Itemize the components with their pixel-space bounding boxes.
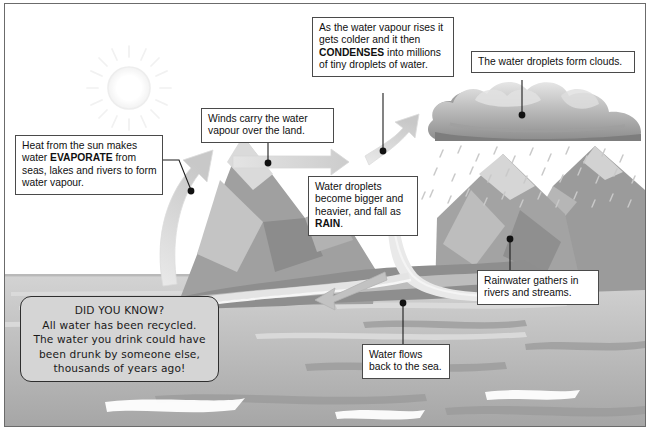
callout-clouds-text: The water droplets form clouds. xyxy=(478,56,622,67)
callout-evaporate[interactable]: Heat from the sun makes water EVAPORATE … xyxy=(15,135,163,195)
water-cycle-diagram-image: Heat from the sun makes water EVAPORATE … xyxy=(0,0,652,435)
leader-dot-water-flows xyxy=(400,300,407,307)
callout-rain[interactable]: Water droplets become bigger and heavier… xyxy=(308,176,418,236)
callout-clouds[interactable]: The water droplets form clouds. xyxy=(471,51,635,73)
callout-rainwater[interactable]: Rainwater gathers in rivers and streams. xyxy=(477,270,599,305)
callout-condenses[interactable]: As the water vapour rises it gets colder… xyxy=(312,17,454,77)
diagram-scene: Heat from the sun makes water EVAPORATE … xyxy=(5,4,645,426)
leader-dot-winds xyxy=(265,160,272,167)
callout-water-flows[interactable]: Water flows back to the sea. xyxy=(362,344,450,379)
did-you-know-line-2: The water you drink could have xyxy=(29,332,210,347)
did-you-know-box: DID YOU KNOW? All water has been recycle… xyxy=(20,296,219,382)
callout-water-flows-text: Water flows back to the sea. xyxy=(369,349,442,372)
leader-dot-evaporate xyxy=(188,188,195,195)
callout-rain-text: Water droplets become bigger and heavier… xyxy=(315,181,403,229)
callout-condenses-keyword: CONDENSES xyxy=(319,47,384,58)
did-you-know-line-4: thousands of years ago! xyxy=(29,361,210,376)
callout-winds[interactable]: Winds carry the water vapour over the la… xyxy=(201,108,334,143)
diagram-frame: Heat from the sun makes water EVAPORATE … xyxy=(4,3,646,427)
leader-dot-condenses xyxy=(380,148,387,155)
leader-dot-clouds xyxy=(519,112,526,119)
callout-evaporate-keyword: EVAPORATE xyxy=(50,152,113,163)
did-you-know-heading: DID YOU KNOW? xyxy=(29,303,210,318)
callout-winds-text: Winds carry the water vapour over the la… xyxy=(208,113,308,136)
callout-evaporate-text: Heat from the sun makes water EVAPORATE … xyxy=(22,140,156,188)
callout-rainwater-text: Rainwater gathers in rivers and streams. xyxy=(484,275,578,298)
did-you-know-line-3: been drunk by someone else, xyxy=(29,347,210,362)
leader-dot-rainwater xyxy=(507,236,514,243)
callout-condenses-text: As the water vapour rises it gets colder… xyxy=(319,22,443,70)
did-you-know-line-1: All water has been recycled. xyxy=(29,318,210,333)
callout-rain-keyword: RAIN xyxy=(315,218,340,229)
